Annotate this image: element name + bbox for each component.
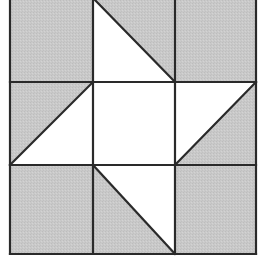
cell-r2c2-shaded	[175, 165, 256, 254]
cell-r0c2-shaded	[175, 0, 256, 82]
cell-r1c1-light	[93, 82, 175, 165]
quilt-block-diagram	[0, 0, 258, 272]
cell-r2c0-shaded	[10, 165, 93, 254]
cell-r0c0-shaded	[10, 0, 93, 82]
